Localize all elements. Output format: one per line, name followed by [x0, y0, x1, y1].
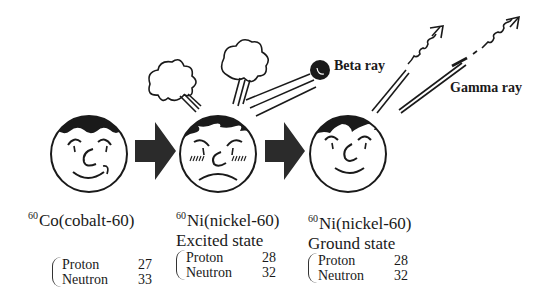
isotope-name: Co(cobalt-60): [39, 211, 134, 230]
isotope-name: Ni(nickel-60): [187, 211, 280, 230]
excited-state-label: Excited state: [176, 232, 263, 249]
proton-label: Proton: [318, 253, 388, 268]
proton-label: Proton: [186, 250, 256, 265]
neutron-count: 33: [132, 272, 152, 287]
nickel-ground-face-icon: [305, 105, 392, 192]
nickel-ground-title: 60Ni(nickel-60): [308, 215, 412, 232]
isotope-name: Ni(nickel-60): [319, 214, 412, 233]
neutron-label: Neutron: [62, 272, 132, 287]
gamma-ray-label: Gamma ray: [450, 80, 522, 96]
beta-particle-icon: [246, 60, 330, 116]
steam-cloud-icon: [149, 40, 268, 112]
transition-arrow-icon: [265, 122, 305, 180]
proton-count: 28: [256, 250, 276, 265]
neutron-label: Neutron: [186, 265, 256, 280]
nickel-excited-nucleon-counts: Proton28 Neutron32: [176, 250, 276, 280]
proton-count: 28: [388, 253, 408, 268]
neutron-count: 32: [388, 268, 408, 283]
mass-number: 60: [28, 210, 38, 221]
nickel-ground-nucleon-counts: Proton28 Neutron32: [308, 253, 408, 283]
mass-number: 60: [308, 213, 318, 224]
beta-ray-label: Beta ray: [334, 58, 385, 74]
cobalt-nucleon-counts: Proton27 Neutron33: [52, 257, 152, 287]
neutron-label: Neutron: [318, 268, 388, 283]
nickel-excited-title: 60Ni(nickel-60): [176, 212, 280, 229]
gamma-ray-icon: [372, 17, 519, 113]
proton-label: Proton: [62, 257, 132, 272]
mass-number: 60: [176, 210, 186, 221]
decay-diagram: [0, 0, 549, 292]
nickel-excited-face-icon: [175, 105, 262, 192]
transition-arrow-icon: [135, 122, 176, 180]
neutron-count: 32: [256, 265, 276, 280]
ground-state-label: Ground state: [308, 235, 395, 252]
cobalt-title: 60Co(cobalt-60): [28, 212, 134, 229]
proton-count: 27: [132, 257, 152, 272]
cobalt-face-icon: [45, 105, 135, 192]
